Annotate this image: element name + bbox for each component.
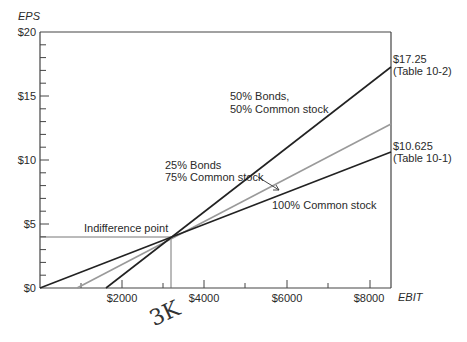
x-axis-title: EBIT	[398, 291, 424, 303]
end-value-top: $17.25	[393, 53, 427, 65]
end-ref-top: (Table 10-2)	[393, 65, 452, 77]
eps-ebit-chart: EPS EBIT $20 $15 $10 $5 $0 $2000 $4000 $…	[0, 0, 467, 342]
x-ticks	[81, 280, 370, 288]
y-tick-label-15: $15	[18, 90, 36, 102]
label-100-common: 100% Common stock	[272, 199, 377, 211]
y-axis-title: EPS	[18, 10, 41, 22]
label-50-bonds-line1: 50% Bonds,	[230, 90, 289, 102]
y-tick-label-20: $20	[18, 26, 36, 38]
x-tick-label-4000: $4000	[189, 292, 220, 304]
y-ticks	[40, 45, 49, 275]
end-value-bottom: $10.625	[393, 140, 433, 152]
x-tick-label-8000: $8000	[354, 292, 385, 304]
label-50-bonds-line2: 50% Common stock	[230, 103, 329, 115]
x-tick-label-6000: $6000	[272, 292, 303, 304]
y-tick-label-10: $10	[18, 154, 36, 166]
y-tick-label-5: $5	[24, 218, 36, 230]
end-ref-bottom: (Table 10-1)	[393, 152, 452, 164]
label-25-bonds-line2: 75% Common stock	[165, 171, 264, 183]
indifference-point-label: Indifference point	[84, 222, 168, 234]
y-tick-label-0: $0	[24, 282, 36, 294]
label-25-bonds-line1: 25% Bonds	[165, 159, 222, 171]
x-tick-label-2000: $2000	[107, 292, 138, 304]
handwritten-note: 3K	[146, 295, 185, 331]
